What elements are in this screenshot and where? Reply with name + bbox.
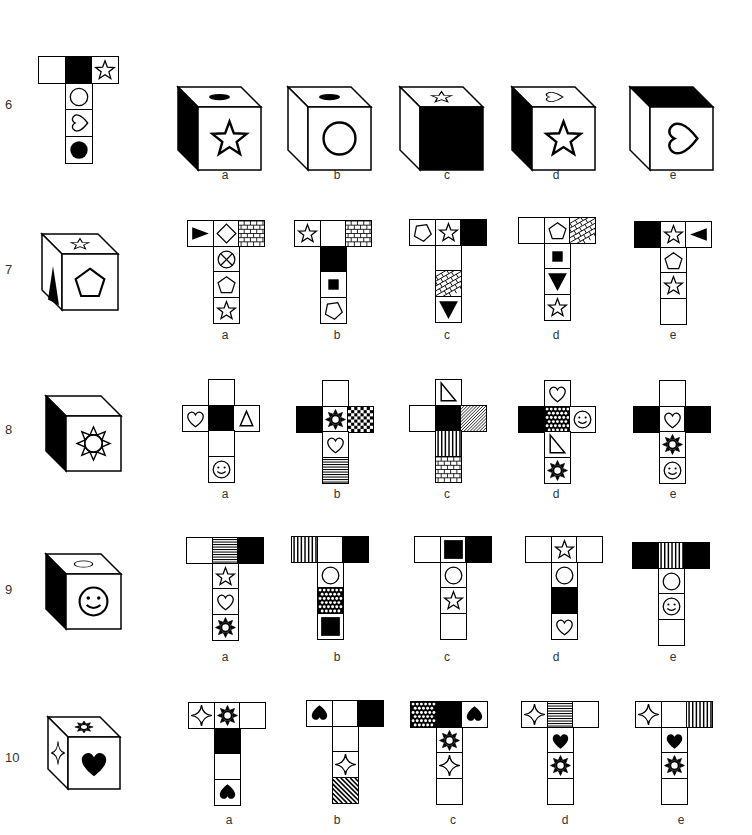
- black-icon: [685, 407, 710, 432]
- triangle-black-down-icon: [436, 297, 461, 322]
- heart-black-inverted-icon: [462, 702, 487, 727]
- net-face-blank: [38, 56, 66, 84]
- net-face-star-outline: [91, 56, 119, 84]
- net-face-smiley: [658, 593, 685, 620]
- question-number-8: 8: [5, 422, 12, 437]
- net-face-smiley: [208, 456, 235, 483]
- blank-icon: [526, 537, 551, 562]
- net-face-black: [320, 246, 347, 273]
- blank-icon: [323, 381, 348, 406]
- black-icon: [461, 220, 486, 245]
- net-face-sun-black: [659, 431, 686, 458]
- net-face-pentagon-outline: [544, 217, 571, 244]
- star-outline-icon: [441, 588, 466, 613]
- option-label-7b[interactable]: b: [327, 328, 347, 342]
- net-face-sun-black: [214, 702, 241, 729]
- net-face-sparkle: [635, 701, 662, 728]
- net-face-sparkle: [436, 752, 463, 779]
- option-label-7e[interactable]: e: [663, 328, 683, 342]
- right-triangle-outline-icon: [436, 380, 461, 405]
- heart-outline-icon: [660, 407, 685, 432]
- net-face-diamond-outline: [213, 220, 240, 247]
- option-label-10d[interactable]: d: [555, 813, 575, 827]
- net-face-heart-outline: [544, 380, 571, 407]
- option-cube-6e[interactable]: [628, 85, 715, 172]
- option-label-9d[interactable]: d: [546, 650, 566, 664]
- option-cube-6c[interactable]: [398, 85, 485, 172]
- heart-black-icon: [662, 728, 687, 753]
- black-icon: [66, 57, 92, 83]
- net-face-heart-black-inverted: [461, 701, 488, 728]
- blank-icon: [410, 406, 435, 431]
- option-label-8e[interactable]: e: [663, 487, 683, 501]
- question-number-9: 9: [5, 582, 12, 597]
- prompt-cube-7[interactable]: [40, 232, 120, 312]
- option-label-7c[interactable]: c: [437, 328, 457, 342]
- vertical-stripes-icon: [659, 543, 684, 568]
- option-label-9c[interactable]: c: [437, 650, 457, 664]
- square-black-large-icon: [441, 537, 466, 562]
- option-cube-6b[interactable]: [286, 85, 373, 172]
- net-face-blank: [239, 702, 266, 729]
- net-face-blank: [332, 700, 359, 727]
- option-label-9a[interactable]: a: [215, 650, 235, 664]
- circle-x-icon: [214, 247, 239, 272]
- cube-front-face: [420, 107, 483, 170]
- diagonal-stripes-bold-icon: [333, 778, 358, 803]
- option-label-10b[interactable]: b: [327, 813, 347, 827]
- option-cube-6d[interactable]: [510, 85, 597, 172]
- prompt-cube-8[interactable]: [44, 394, 123, 473]
- sun-black-icon: [323, 407, 348, 432]
- horizontal-stripes-icon: [213, 538, 238, 563]
- option-label-8d[interactable]: d: [546, 487, 566, 501]
- option-label-7d[interactable]: d: [546, 328, 566, 342]
- blank-icon: [548, 779, 573, 804]
- net-face-blank: [409, 405, 436, 432]
- brick-diagonal-icon: [570, 218, 595, 243]
- black-icon: [519, 407, 544, 432]
- prompt-cube-9[interactable]: [44, 552, 123, 631]
- option-cube-6a[interactable]: [176, 85, 263, 172]
- black-icon: [343, 537, 368, 562]
- net-face-circle-outline: [551, 562, 578, 589]
- option-label-8c[interactable]: c: [437, 487, 457, 501]
- sparkle-icon: [333, 752, 358, 777]
- net-face-sparkle: [521, 701, 548, 728]
- vertical-stripes-icon: [687, 702, 712, 727]
- option-label-9e[interactable]: e: [663, 650, 683, 664]
- option-label-10a[interactable]: a: [219, 813, 239, 827]
- vertical-stripes-icon: [436, 431, 461, 456]
- net-face-blank: [332, 726, 359, 753]
- net-face-circle-outline: [65, 83, 93, 111]
- net-face-blank: [440, 613, 467, 640]
- pentagon-outline-tilted-icon: [410, 220, 435, 245]
- black-icon: [633, 543, 658, 568]
- net-face-black: [435, 405, 462, 432]
- net-face-brick-diagonal: [569, 217, 596, 244]
- question-number-7: 7: [5, 262, 12, 277]
- net-face-dots: [544, 406, 571, 433]
- diamond-outline-icon: [214, 221, 239, 246]
- sun-black-icon: [548, 753, 573, 778]
- blank-icon: [209, 380, 234, 405]
- blank-icon: [661, 299, 686, 324]
- blank-icon: [318, 537, 343, 562]
- net-face-star-outline: [294, 220, 321, 247]
- option-label-8a[interactable]: a: [215, 487, 235, 501]
- net-face-black: [65, 56, 93, 84]
- net-face-square-black-small: [544, 243, 571, 270]
- prompt-cube-10[interactable]: [46, 715, 122, 791]
- option-label-7a[interactable]: a: [215, 328, 235, 342]
- blank-icon: [437, 779, 462, 804]
- option-label-10e[interactable]: e: [671, 813, 691, 827]
- blank-icon: [436, 246, 461, 271]
- option-label-8b[interactable]: b: [327, 487, 347, 501]
- circle-outline-icon: [552, 563, 577, 588]
- net-face-checker: [347, 406, 374, 433]
- option-label-10c[interactable]: c: [443, 813, 463, 827]
- heart-outline-icon: [545, 381, 570, 406]
- option-label-9b[interactable]: b: [327, 650, 347, 664]
- net-face-triangle-black-down: [435, 296, 462, 323]
- blank-icon: [333, 727, 358, 752]
- net-face-sun-black: [436, 727, 463, 754]
